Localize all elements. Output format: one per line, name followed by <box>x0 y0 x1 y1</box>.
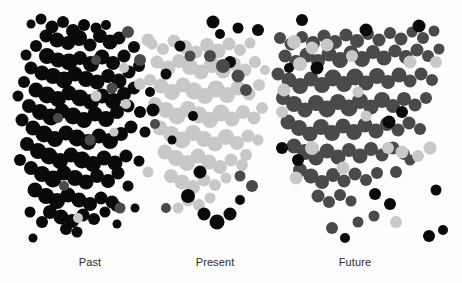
data-point-outlier-past <box>175 41 186 52</box>
data-point-past <box>78 19 90 31</box>
data-point-past <box>140 127 151 138</box>
data-point-outlier-present <box>110 128 119 137</box>
data-point-present <box>234 44 246 56</box>
data-point-outlier-future <box>216 59 230 73</box>
axis-label-past: Past <box>79 255 101 269</box>
data-point-present <box>209 179 221 191</box>
data-point-outlier-present <box>276 106 288 118</box>
data-point-outlier-past <box>181 189 195 203</box>
data-point-past <box>18 76 30 88</box>
data-point-past <box>128 41 140 53</box>
data-point-outlier-past <box>194 166 207 179</box>
data-point-outlier-present <box>134 78 146 90</box>
data-point-outlier-past <box>292 154 304 166</box>
data-point-outlier-past <box>233 23 244 34</box>
data-point-outlier-past <box>431 185 442 196</box>
data-point-outlier-past <box>311 62 324 75</box>
data-point-future <box>373 34 386 47</box>
data-point-outlier-future <box>204 50 216 62</box>
data-point-future <box>420 92 432 104</box>
data-point-past <box>125 121 138 134</box>
data-point-past <box>120 150 133 163</box>
data-point-outlier-past <box>340 233 350 243</box>
data-point-outlier-past <box>384 198 396 210</box>
data-point-future <box>274 32 286 44</box>
data-point-outlier-present <box>91 91 102 102</box>
data-point-past <box>36 216 48 228</box>
data-point-outlier-present <box>143 167 154 178</box>
data-point-outlier-past <box>147 104 160 117</box>
data-point-outlier-past <box>396 106 408 118</box>
data-point-outlier-past <box>198 208 211 221</box>
data-point-outlier-past <box>413 20 426 33</box>
data-point-outlier-past <box>284 63 294 73</box>
data-point-outlier-future <box>107 83 118 94</box>
data-point-past <box>134 106 146 118</box>
plot-area <box>0 0 462 250</box>
data-point-outlier-future <box>134 54 146 66</box>
data-point-outlier-past <box>423 230 435 242</box>
data-point-outlier-future <box>161 203 171 213</box>
data-point-outlier-past <box>224 208 237 221</box>
data-point-present <box>245 38 256 49</box>
data-point-outlier-future <box>246 180 258 192</box>
data-point-future <box>323 196 335 208</box>
data-point-present <box>225 154 238 167</box>
data-point-outlier-present <box>287 35 301 49</box>
data-point-future <box>334 189 346 201</box>
data-point-future <box>403 117 416 130</box>
data-point-outlier-present <box>382 142 394 154</box>
data-point-outlier-future <box>369 211 380 222</box>
data-point-outlier-present <box>290 172 303 185</box>
data-point-outlier-present <box>390 216 402 228</box>
data-point-outlier-past <box>215 29 225 39</box>
data-point-outlier-present <box>337 162 350 175</box>
data-point-outlier-future <box>353 217 364 228</box>
data-point-past <box>27 20 36 29</box>
data-point-past <box>21 50 32 61</box>
data-point-present <box>256 102 268 114</box>
data-point-past <box>14 154 26 166</box>
data-point-outlier-present <box>278 84 291 97</box>
data-point-outlier-past <box>252 24 264 36</box>
data-point-outlier-present <box>119 63 129 73</box>
axis-label-row: Past Present Future <box>0 255 462 283</box>
data-point-outlier-present <box>424 142 437 155</box>
data-point-past <box>36 14 47 25</box>
data-point-outlier-present <box>142 34 155 47</box>
data-point-future <box>404 75 417 88</box>
data-point-past <box>100 207 111 218</box>
data-point-future <box>338 175 351 188</box>
data-point-past <box>13 91 24 102</box>
data-point-outlier-present <box>412 150 424 162</box>
data-point-present <box>260 65 270 75</box>
data-point-outlier-present <box>321 39 334 52</box>
scatter-plot-svg <box>0 0 462 250</box>
data-point-outlier-present <box>430 56 442 68</box>
axis-label-present: Present <box>196 255 235 269</box>
data-point-outlier-past <box>360 24 373 37</box>
data-point-present <box>221 173 232 184</box>
data-point-past <box>123 181 134 192</box>
data-point-future <box>409 99 422 112</box>
dot-cluster-chart: Past Present Future <box>0 0 462 283</box>
data-point-present <box>157 43 169 55</box>
data-point-outlier-future <box>235 171 246 182</box>
data-point-outlier-present <box>73 213 83 223</box>
data-point-outlier-past <box>438 225 448 235</box>
data-point-outlier-past <box>168 136 177 145</box>
data-point-past <box>134 156 145 167</box>
data-point-outlier-future <box>59 181 69 191</box>
data-point-outlier-future <box>150 119 160 129</box>
data-point-outlier-future <box>185 51 196 62</box>
data-point-present <box>173 203 184 214</box>
data-point-future <box>395 33 408 46</box>
data-point-outlier-present <box>396 146 409 159</box>
data-point-outlier-future <box>115 203 126 214</box>
data-point-future <box>415 68 428 81</box>
data-point-past <box>60 223 72 235</box>
data-point-past <box>101 20 111 30</box>
data-point-past <box>88 213 100 225</box>
data-point-outlier-future <box>85 135 96 146</box>
data-point-outlier-present <box>353 87 364 98</box>
